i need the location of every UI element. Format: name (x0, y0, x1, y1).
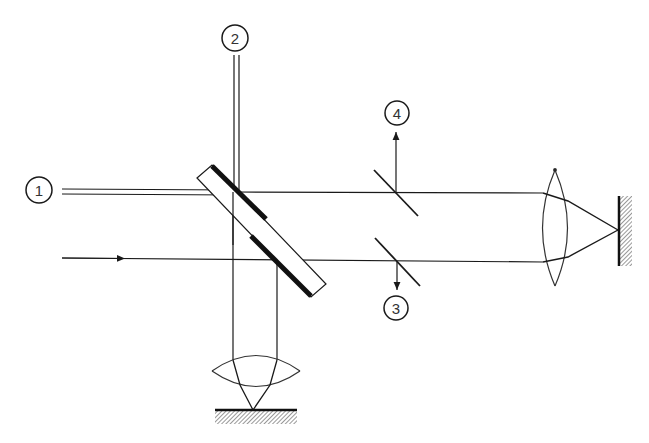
port-3-marker: 3 (384, 296, 408, 320)
right-focus-rays (543, 193, 618, 262)
port-2-beam (234, 55, 239, 192)
right-mirror (619, 196, 632, 266)
port-2-marker: 2 (222, 25, 248, 51)
beam-splitter (197, 165, 326, 297)
pickoff-plate-upper (374, 132, 418, 216)
right-lens (543, 169, 568, 286)
port-4-marker: 4 (385, 101, 409, 125)
bottom-lens (212, 356, 300, 387)
port-1-marker: 1 (26, 177, 52, 203)
pickoff-plate-lower (375, 238, 420, 290)
port-3-label: 3 (392, 300, 400, 317)
port-2-label: 2 (231, 30, 239, 47)
bottom-focus-rays (233, 360, 277, 410)
bottom-mirror (215, 410, 297, 424)
port-4-label: 4 (393, 105, 401, 122)
main-beams (62, 192, 543, 262)
port-1-label: 1 (35, 182, 43, 199)
optical-diagram: 1 2 4 (0, 0, 649, 443)
